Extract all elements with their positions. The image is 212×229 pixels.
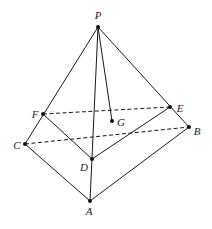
dashed-edges bbox=[25, 107, 189, 144]
label-G: G bbox=[117, 116, 125, 128]
label-F: F bbox=[31, 108, 39, 120]
label-B: B bbox=[194, 125, 201, 137]
edge-PG bbox=[98, 27, 112, 121]
label-D: D bbox=[79, 161, 88, 173]
edge-PA bbox=[90, 27, 98, 201]
edge-FE bbox=[43, 107, 170, 114]
label-P: P bbox=[94, 9, 102, 21]
vertex-C bbox=[23, 142, 27, 146]
vertex-D bbox=[90, 157, 94, 161]
vertex-F bbox=[41, 112, 45, 116]
edge-AB bbox=[90, 127, 189, 201]
vertex-B bbox=[187, 125, 191, 129]
edge-PC bbox=[25, 27, 98, 144]
edge-FD bbox=[43, 114, 92, 159]
label-E: E bbox=[176, 102, 184, 114]
vertex-G bbox=[110, 119, 114, 123]
label-A: A bbox=[85, 205, 93, 217]
edge-CB bbox=[25, 127, 189, 144]
vertex-P bbox=[96, 25, 100, 29]
label-C: C bbox=[13, 139, 21, 151]
vertices bbox=[23, 25, 191, 203]
vertex-A bbox=[88, 199, 92, 203]
pyramid-diagram: P F E G B C D A bbox=[0, 0, 212, 229]
edge-PB bbox=[98, 27, 189, 127]
vertex-E bbox=[168, 105, 172, 109]
